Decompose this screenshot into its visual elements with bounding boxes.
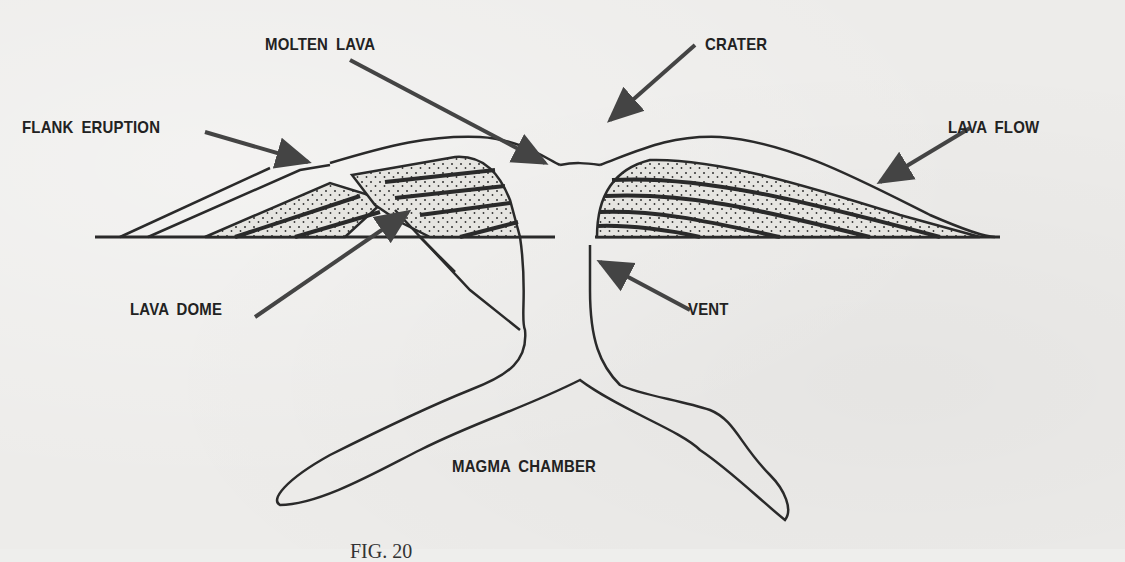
label-flank-eruption: FLANK ERUPTION (22, 118, 160, 138)
label-magma-chamber: MAGMA CHAMBER (452, 457, 596, 477)
main-vent (277, 237, 788, 520)
arrow-flank-eruption (205, 132, 308, 162)
arrow-crater (610, 45, 695, 120)
label-lava-flow: LAVA FLOW (948, 118, 1039, 138)
right-cone (597, 137, 995, 237)
label-crater: CRATER (705, 35, 767, 55)
crater-line (560, 163, 600, 165)
arrows (205, 45, 970, 317)
figure-caption: FIG. 20 (350, 540, 412, 562)
arrow-vent (600, 262, 690, 310)
label-vent: VENT (688, 300, 729, 320)
arrow-molten-lava (350, 60, 545, 163)
left-lava-layers (205, 157, 520, 237)
label-molten-lava: MOLTEN LAVA (265, 35, 375, 55)
label-lava-dome: LAVA DOME (130, 300, 222, 320)
